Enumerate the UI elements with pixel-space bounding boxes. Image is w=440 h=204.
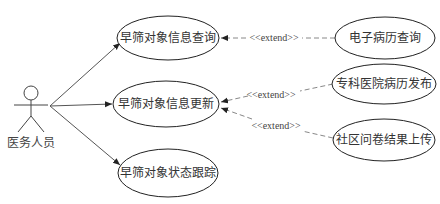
use-case-diagram: 医务人员 早筛对象信息查询 早筛对象信息更新 早筛对象状态跟踪 <<extend… bbox=[0, 0, 440, 204]
use-case-ex2: 专科医院病历发布 bbox=[332, 64, 436, 104]
extend-stereotype: <<extend>> bbox=[251, 120, 301, 131]
association-uc1 bbox=[50, 43, 120, 106]
actor-head-icon bbox=[24, 86, 38, 100]
extend-ex2-to-uc2: <<extend>> bbox=[221, 84, 333, 102]
use-case-label: 专科医院病历发布 bbox=[336, 76, 432, 91]
association-uc2 bbox=[50, 104, 112, 106]
use-case-uc2: 早筛对象信息更新 bbox=[113, 81, 219, 127]
actor-left-leg bbox=[18, 116, 31, 132]
use-case-label: 早筛对象信息更新 bbox=[118, 96, 214, 111]
use-case-label: 早筛对象状态跟踪 bbox=[120, 165, 216, 180]
extend-ex1-to-uc1: <<extend>> bbox=[221, 32, 335, 43]
use-case-label: 早筛对象信息查询 bbox=[120, 30, 216, 45]
association-uc3 bbox=[50, 106, 120, 165]
actor-right-leg bbox=[31, 116, 44, 132]
extend-stereotype: <<extend>> bbox=[246, 89, 296, 100]
use-case-uc3: 早筛对象状态跟踪 bbox=[118, 149, 218, 197]
use-case-label: 电子病历查询 bbox=[349, 30, 421, 45]
actor-label: 医务人员 bbox=[7, 135, 55, 150]
use-case-label: 社区问卷结果上传 bbox=[336, 132, 432, 147]
extend-ex3-to-uc2: <<extend>> bbox=[221, 108, 333, 138]
extend-stereotype: <<extend>> bbox=[249, 32, 299, 43]
use-case-ex1: 电子病历查询 bbox=[335, 17, 435, 59]
use-case-ex3: 社区问卷结果上传 bbox=[333, 119, 435, 161]
actor-medical-staff: 医务人员 bbox=[7, 86, 55, 150]
use-case-uc1: 早筛对象信息查询 bbox=[117, 16, 219, 60]
